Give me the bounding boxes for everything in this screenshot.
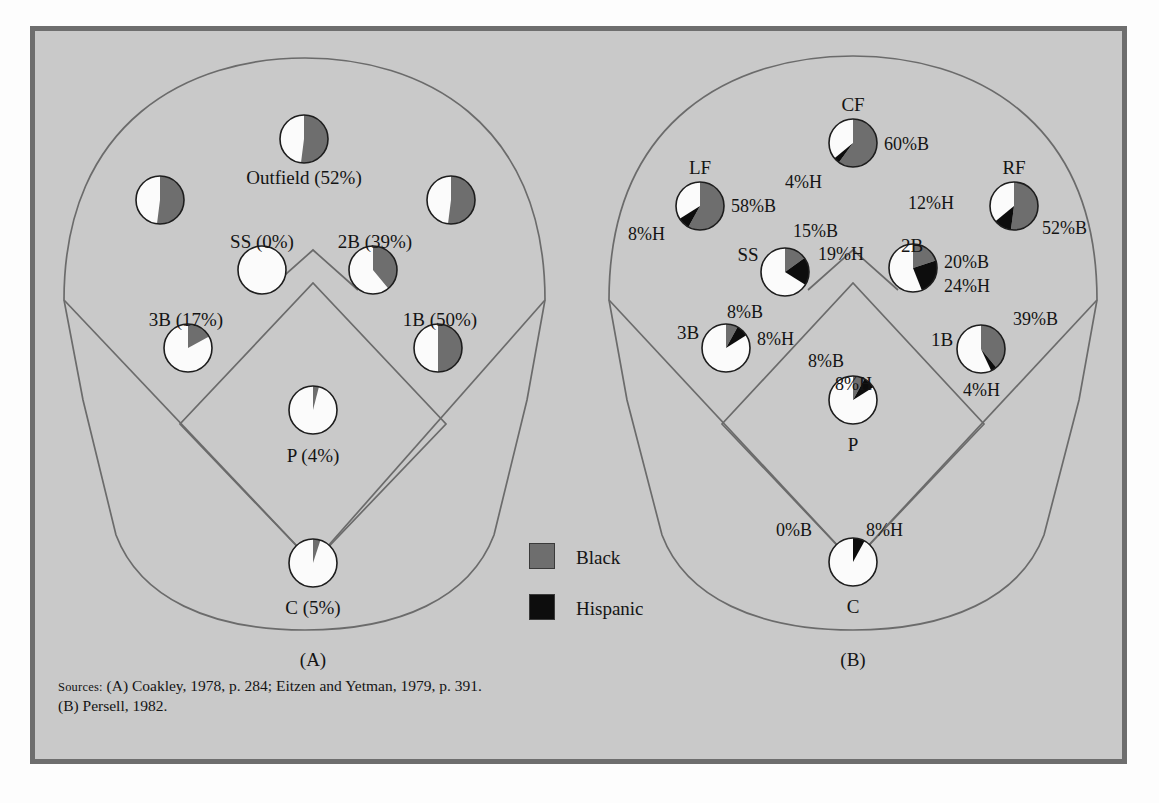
- value-c-hispanic: 8%H: [866, 521, 903, 539]
- legend-swatch-black: [529, 543, 555, 569]
- value-ss-hispanic: 19%H: [818, 245, 864, 263]
- label-2b-a: 2B (39%): [338, 232, 412, 251]
- value-rf-black: 52%B: [1042, 219, 1087, 237]
- label-1b-b: 1B: [931, 330, 953, 349]
- caption-panel-a: (A): [300, 650, 326, 669]
- label-ss-b: SS: [737, 245, 758, 264]
- sources-text: (A) Coakley, 1978, p. 284; Eitzen and Ye…: [58, 677, 482, 714]
- label-3b-a: 3B (17%): [149, 310, 223, 329]
- legend-swatch-hispanic: [529, 594, 555, 620]
- label-2b-b: 2B: [901, 236, 923, 255]
- value-c-black: 0%B: [776, 521, 812, 539]
- label-p-b: P: [848, 435, 859, 454]
- value-cf-black: 60%B: [884, 135, 929, 153]
- label-c-a: C (5%): [285, 598, 340, 617]
- sources-note: Sources: (A) Coakley, 1978, p. 284; Eitz…: [58, 676, 488, 717]
- value-cf-hispanic: 4%H: [785, 173, 822, 191]
- label-ss-a: SS (0%): [230, 232, 294, 251]
- label-c-b: C: [847, 597, 860, 616]
- legend-label-black: Black: [576, 548, 620, 567]
- label-lf-b: LF: [689, 158, 711, 177]
- label-p-a: P (4%): [287, 446, 340, 465]
- label-outfield-a: Outfield (52%): [246, 168, 362, 187]
- value-lf-black: 58%B: [731, 197, 776, 215]
- value-2b-black: 20%B: [944, 253, 989, 271]
- label-rf-b: RF: [1002, 158, 1025, 177]
- sources-prefix: Sources:: [58, 680, 103, 694]
- value-lf-hispanic: 8%H: [628, 225, 665, 243]
- value-1b-black: 39%B: [1013, 310, 1058, 328]
- value-rf-hispanic: 12%H: [908, 194, 954, 212]
- value-1b-hispanic: 4%H: [963, 381, 1000, 399]
- caption-panel-b: (B): [840, 650, 865, 669]
- value-3b-black: 8%B: [727, 303, 763, 321]
- value-p-black: 8%B: [808, 352, 844, 370]
- label-3b-b: 3B: [677, 323, 699, 342]
- value-ss-black: 15%B: [793, 222, 838, 240]
- figure-page: Outfield (52%) SS (0%) 2B (39%) 3B (17%)…: [0, 0, 1159, 803]
- label-cf-b: CF: [841, 95, 864, 114]
- value-p-hispanic: 8%H: [835, 375, 872, 393]
- label-1b-a: 1B (50%): [403, 310, 477, 329]
- legend-label-hispanic: Hispanic: [576, 599, 644, 618]
- value-3b-hispanic: 8%H: [757, 330, 794, 348]
- value-2b-hispanic: 24%H: [944, 277, 990, 295]
